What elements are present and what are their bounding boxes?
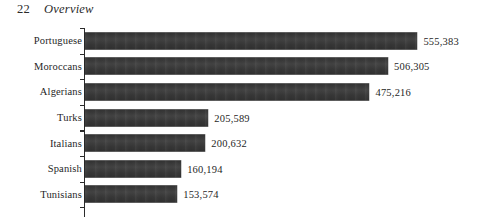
bar-row: Algerians475,216 <box>0 79 486 105</box>
bar-row: Spanish160,194 <box>0 156 486 182</box>
bar <box>85 83 369 100</box>
bar-container <box>85 58 388 75</box>
running-head: 22 Overview <box>17 2 94 17</box>
bar-row: Tunisians153,574 <box>0 182 486 208</box>
bar-value-label: 153,574 <box>183 189 219 200</box>
bar-container <box>85 83 369 100</box>
bar-value-label: 200,632 <box>211 138 247 149</box>
page-number: 22 <box>17 2 30 17</box>
bar-container <box>85 135 205 152</box>
bar-container <box>85 32 417 49</box>
category-label: Italians <box>0 138 82 149</box>
bar-row: Moroccans506,305 <box>0 54 486 80</box>
category-label: Turks <box>0 112 82 123</box>
category-label: Tunisians <box>0 189 82 200</box>
bar-value-label: 555,383 <box>423 35 459 46</box>
axis-tick <box>80 28 85 29</box>
running-head-title: Overview <box>44 2 94 17</box>
bar <box>85 58 388 75</box>
bar-value-label: 506,305 <box>394 61 430 72</box>
axis-tick <box>80 54 85 55</box>
axis-tick <box>80 79 85 80</box>
bar-container <box>85 160 181 177</box>
bar-value-label: 475,216 <box>375 86 411 97</box>
bar <box>85 135 205 152</box>
category-label: Algerians <box>0 86 82 97</box>
category-label: Portuguese <box>0 35 82 46</box>
axis-tick <box>80 130 85 131</box>
bar-chart: Portuguese555,383Moroccans506,305Algeria… <box>0 26 486 223</box>
bar <box>85 160 181 177</box>
axis-tick <box>80 182 85 183</box>
category-label: Moroccans <box>0 61 82 72</box>
bar-value-label: 160,194 <box>187 163 223 174</box>
bar <box>85 186 177 203</box>
bar-value-label: 205,589 <box>214 112 250 123</box>
bar-row: Italians200,632 <box>0 130 486 156</box>
bar-container <box>85 109 208 126</box>
plot-area: Portuguese555,383Moroccans506,305Algeria… <box>0 26 486 223</box>
bar <box>85 32 417 49</box>
bar-row: Portuguese555,383 <box>0 28 486 54</box>
category-label: Spanish <box>0 163 82 174</box>
axis-tick-end <box>80 207 85 208</box>
bar <box>85 109 208 126</box>
bar-container <box>85 186 177 203</box>
axis-tick <box>80 105 85 106</box>
bar-row: Turks205,589 <box>0 105 486 131</box>
axis-tick <box>80 156 85 157</box>
